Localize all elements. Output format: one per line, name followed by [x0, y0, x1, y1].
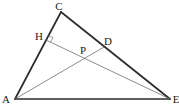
point-label-E: E: [173, 94, 179, 105]
geometry-figure: CHDPAE: [0, 0, 179, 108]
triangle-diagram-svg: [0, 0, 179, 108]
point-label-H: H: [35, 31, 43, 42]
point-label-P: P: [80, 45, 86, 56]
point-label-D: D: [104, 36, 112, 47]
point-label-A: A: [2, 94, 10, 105]
side-CE: [61, 12, 170, 99]
point-label-C: C: [55, 1, 62, 12]
